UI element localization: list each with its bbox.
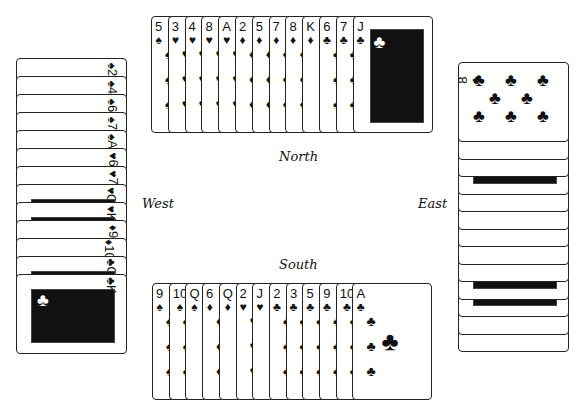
card-rank: Q <box>189 287 199 300</box>
heart-icon: ♥ <box>256 301 263 313</box>
spade-icon: ♠ <box>177 301 183 313</box>
card-index: 8♥ <box>205 20 212 46</box>
card-rank: 5 <box>155 20 162 33</box>
card-index: Q♠ <box>189 287 199 313</box>
club-icon: ♣ <box>290 301 298 313</box>
club-icon: ♣ <box>340 34 348 46</box>
spade-icon: ♠ <box>191 301 197 313</box>
card-rank: 2 <box>239 20 246 33</box>
card-index: 6♦ <box>206 287 213 313</box>
card-rank: 2 <box>273 287 280 300</box>
card-index: 7♦ <box>273 20 280 46</box>
heart-icon: ♥ <box>106 152 118 159</box>
club-icon: ♣ <box>521 89 533 107</box>
club-icon: ♣ <box>366 314 375 328</box>
card-index: 9♣ <box>323 287 331 313</box>
card-rank: 8 <box>289 20 296 33</box>
card-index: 6♠ <box>107 99 120 113</box>
card-index: 5♦ <box>256 20 263 46</box>
club-icon: ♣ <box>374 33 386 51</box>
card-index: 9♠ <box>156 287 163 313</box>
card-rank: J <box>357 20 364 33</box>
card-rank: Q <box>223 287 233 300</box>
card-index: 7♣ <box>340 20 348 46</box>
club-icon: ♣ <box>105 259 117 267</box>
card-index: 2♠ <box>107 63 120 77</box>
card-rank: 5 <box>307 287 314 300</box>
spade-icon: ♠ <box>156 301 162 313</box>
card-rank: 6 <box>206 287 213 300</box>
north-label: North <box>279 149 318 164</box>
club-icon: ♣ <box>473 107 485 125</box>
diamond-icon: ♦ <box>240 34 246 46</box>
club-icon: ♣ <box>357 34 365 46</box>
card-rank: 5 <box>256 20 263 33</box>
card-index: 6♥ <box>106 152 119 166</box>
card-rank: 3 <box>172 20 179 33</box>
club-icon: ♣ <box>473 71 485 89</box>
card-index: 4♥ <box>189 20 196 46</box>
heart-icon: ♥ <box>106 206 118 213</box>
card-index: 5♠ <box>155 20 162 46</box>
card-index: K♦ <box>306 20 315 46</box>
diamond-icon: ♦ <box>307 34 313 46</box>
diamond-icon: ♦ <box>225 301 231 313</box>
card-index: 2♦ <box>239 20 246 46</box>
card-rank: 4 <box>189 20 196 33</box>
club-icon: ♣ <box>323 34 331 46</box>
heart-icon: ♥ <box>106 170 118 177</box>
club-icon: ♣ <box>273 301 281 313</box>
card-rank: 7 <box>273 20 280 33</box>
card-index: 2♣ <box>273 287 281 313</box>
card-index: Q♦ <box>223 287 233 313</box>
heart-icon: ♥ <box>172 34 179 46</box>
heart-icon: ♥ <box>205 34 212 46</box>
club-icon: ♣ <box>323 301 331 313</box>
club-icon: ♣ <box>537 71 549 89</box>
club-icon: ♣ <box>366 339 375 353</box>
club-icon: ♣ <box>37 291 49 309</box>
club-icon: ♣ <box>343 301 351 313</box>
east-label: East <box>418 196 447 211</box>
card-index: A♥ <box>222 20 231 46</box>
club-icon: ♣ <box>366 364 375 378</box>
south-label: South <box>279 257 318 272</box>
card-k-of-clubs[interactable]: K♣♣ <box>16 274 127 354</box>
card-index: 3♣ <box>290 287 298 313</box>
diamond-icon: ♦ <box>290 34 296 46</box>
card-j-of-clubs[interactable]: J♣♣ <box>353 16 433 133</box>
card-rank: 6 <box>323 20 330 33</box>
card-8-of-clubs[interactable]: 8♣♣♣♣♣♣♣♣♣ <box>458 62 569 142</box>
card-index: 9♦ <box>107 225 120 238</box>
card-rank: 8 <box>205 20 212 33</box>
club-icon: ♣ <box>505 71 517 89</box>
card-rank: 3 <box>290 287 297 300</box>
diamond-icon: ♦ <box>256 34 262 46</box>
card-index: 7♥ <box>106 170 119 184</box>
card-rank: A <box>356 287 365 300</box>
card-index: 8♦ <box>289 20 296 46</box>
card-rank: A <box>222 20 231 33</box>
club-icon: ♣ <box>537 107 549 125</box>
card-a-of-clubs[interactable]: A♣♣♣♣♣ <box>352 283 432 400</box>
west-label: West <box>142 196 174 211</box>
spade-icon: ♠ <box>155 34 161 46</box>
club-icon: ♣ <box>357 301 365 313</box>
club-icon: ♣ <box>381 328 398 354</box>
card-rank: 8 <box>458 76 469 83</box>
card-index: 3♥ <box>172 20 179 46</box>
card-index: 4♠ <box>107 81 120 95</box>
card-rank: 2 <box>240 287 247 300</box>
card-index: A♣ <box>356 287 365 313</box>
diamond-icon: ♦ <box>207 301 213 313</box>
club-icon: ♣ <box>505 107 517 125</box>
card-index: 7♠ <box>107 117 120 131</box>
club-icon: ♣ <box>306 301 314 313</box>
card-index: J♣ <box>357 20 365 46</box>
heart-icon: ♥ <box>189 34 196 46</box>
card-rank: K <box>306 20 315 33</box>
card-index: 5♣ <box>306 287 314 313</box>
card-rank: J <box>257 287 264 300</box>
club-icon: ♣ <box>105 277 117 285</box>
heart-icon: ♥ <box>240 301 247 313</box>
